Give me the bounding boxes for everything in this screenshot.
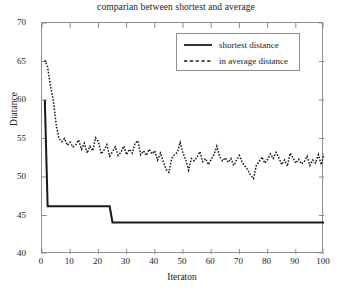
x-axis-label: Iteraton	[41, 272, 323, 282]
series-line-shortest-distance	[45, 100, 324, 222]
y-axis-label: Diatance	[9, 64, 19, 154]
y-tick-label: 50	[0, 171, 26, 181]
legend: shortest distance in average distance	[176, 33, 300, 71]
legend-label: in average distance	[219, 56, 288, 66]
chart-title: comparian between shortest and average	[0, 2, 352, 12]
y-tick-label: 70	[0, 17, 26, 27]
legend-label: shortest distance	[219, 40, 279, 50]
legend-solid-line-icon	[183, 40, 213, 50]
legend-item-in-average-distance: in average distance	[183, 53, 288, 69]
y-tick-label: 45	[0, 210, 26, 220]
legend-item-shortest-distance: shortest distance	[183, 37, 279, 53]
figure-canvas: comparian between shortest and average 4…	[0, 0, 352, 296]
legend-dashed-line-icon	[183, 56, 213, 66]
x-tick-label: 100	[303, 256, 343, 266]
series-line-in-average-distance	[45, 60, 324, 179]
